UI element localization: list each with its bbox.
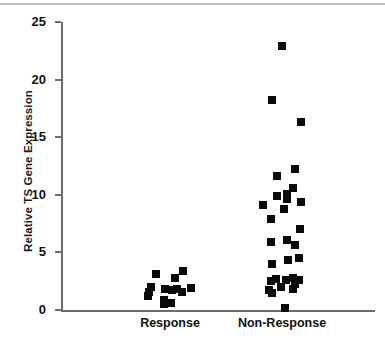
data-point	[283, 195, 291, 203]
data-point	[284, 256, 292, 264]
data-point	[277, 283, 285, 291]
data-point	[291, 165, 299, 173]
data-point	[267, 238, 275, 246]
data-point	[267, 277, 275, 285]
y-tick-label-0: 0	[39, 302, 46, 317]
y-tick-20: 20	[55, 79, 61, 81]
data-point	[259, 201, 267, 209]
y-tick-label-10: 10	[32, 186, 46, 201]
data-point	[268, 96, 276, 104]
y-tick-5: 5	[55, 251, 61, 253]
y-tick-0: 0	[55, 309, 61, 311]
x-axis-line	[61, 310, 375, 312]
data-point	[289, 285, 297, 293]
y-tick-label-5: 5	[39, 244, 46, 259]
y-tick-label-15: 15	[32, 129, 46, 144]
data-point	[278, 42, 286, 50]
data-point	[297, 118, 305, 126]
data-point	[273, 192, 281, 200]
y-axis-title: Relative TS Gene Expression	[22, 61, 34, 281]
y-tick-label-25: 25	[32, 14, 46, 29]
y-tick-10: 10	[55, 194, 61, 196]
plot-area: 0510152025	[61, 22, 375, 310]
data-point	[268, 260, 276, 268]
x-axis-label-response: Response	[140, 316, 200, 330]
data-point	[144, 292, 152, 300]
y-tick-15: 15	[55, 136, 61, 138]
data-point	[152, 270, 160, 278]
data-point	[268, 289, 276, 297]
data-point	[297, 198, 305, 206]
chart-figure: Relative TS Gene Expression 0510152025 R…	[0, 0, 385, 346]
data-point	[178, 288, 186, 296]
y-axis-line	[61, 22, 63, 311]
x-axis-label-non-response: Non-Response	[238, 316, 326, 330]
data-point	[267, 215, 275, 223]
data-point	[160, 300, 168, 308]
data-point	[281, 304, 289, 312]
top-divider-rule	[0, 3, 385, 5]
data-point	[187, 284, 195, 292]
data-point	[295, 254, 303, 262]
y-tick-label-20: 20	[32, 71, 46, 86]
data-point	[168, 286, 176, 294]
y-tick-25: 25	[55, 21, 61, 23]
data-point	[273, 172, 281, 180]
data-point	[280, 205, 288, 213]
data-point	[179, 267, 187, 275]
data-point	[171, 274, 179, 282]
data-point	[283, 236, 291, 244]
data-point	[296, 225, 304, 233]
data-point	[291, 241, 299, 249]
